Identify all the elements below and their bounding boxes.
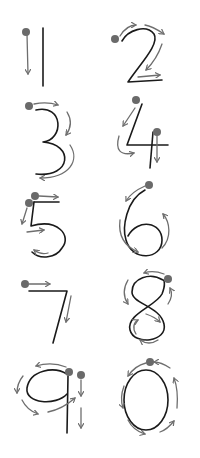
down-arrow-icon <box>123 108 135 126</box>
digit-6-drawing <box>100 180 200 270</box>
curve-arrow-icon <box>144 272 164 274</box>
curve-arrow-icon <box>36 364 66 367</box>
digit-5-drawing <box>0 180 100 270</box>
digit-1-card: 1 <box>0 0 100 90</box>
start-dot-icon <box>21 280 29 288</box>
digit-3-drawing <box>0 90 100 180</box>
curve-arrow-icon <box>40 145 74 178</box>
digit-1-drawing <box>0 0 100 90</box>
curve-arrow-icon <box>146 314 160 322</box>
curve-arrow-icon <box>160 421 174 432</box>
digit-0-drawing <box>100 360 200 450</box>
start-dot-icon <box>77 371 85 379</box>
right-arrow-icon <box>138 75 160 77</box>
start-dot-icon <box>146 358 154 366</box>
digit-7-drawing <box>0 270 100 360</box>
curve-arrow-icon <box>66 112 70 135</box>
curve-arrow-icon <box>146 44 162 70</box>
start-dot-icon <box>31 192 39 200</box>
digit-5-card: 5 <box>0 180 100 270</box>
curve-arrow-icon <box>124 280 128 304</box>
start-dot-icon <box>164 275 172 283</box>
start-dot-icon <box>25 102 33 110</box>
start-dot-icon <box>132 96 140 104</box>
curve-arrow-icon <box>17 376 23 393</box>
digit-4-card: 4 <box>100 90 200 180</box>
curve-arrow-icon <box>134 320 138 334</box>
down-arrow-icon <box>22 208 27 224</box>
right-arrow-icon <box>39 196 58 197</box>
curve-arrow-icon <box>22 400 38 414</box>
digit-2-drawing <box>100 0 200 90</box>
digit-2-card: 2 <box>100 0 200 90</box>
digit-9-drawing <box>0 360 100 450</box>
digit-8-card: 8 <box>100 270 200 360</box>
digit-0-card: 0 <box>100 360 200 450</box>
start-dot-icon <box>25 199 33 207</box>
down-arrow-icon <box>27 34 28 74</box>
digit-3-card: 3 <box>0 90 100 180</box>
curve-arrow-icon <box>162 214 169 248</box>
curve-arrow-icon <box>154 362 170 368</box>
stroke-order-worksheet: 1 2 3 4 <box>0 0 200 458</box>
digit-8-drawing <box>100 270 200 360</box>
down-arrow-icon <box>66 296 71 322</box>
curve-arrow-icon <box>34 250 48 254</box>
start-dot-icon <box>145 181 153 189</box>
digit-7-card: 7 <box>0 270 100 360</box>
digit-6-card: 6 <box>100 180 200 270</box>
start-dot-icon <box>22 28 30 36</box>
start-dot-icon <box>111 35 119 43</box>
curve-arrow-icon <box>34 103 58 105</box>
curve-arrow-icon <box>174 378 177 408</box>
digit-4-drawing <box>100 90 200 180</box>
right-arrow-icon <box>27 230 44 232</box>
curve-arrow-icon <box>168 288 171 304</box>
start-dot-icon <box>65 368 73 376</box>
start-dot-icon <box>153 128 161 136</box>
digit-9-card: 9 <box>0 360 100 450</box>
curve-arrow-icon <box>48 398 75 412</box>
